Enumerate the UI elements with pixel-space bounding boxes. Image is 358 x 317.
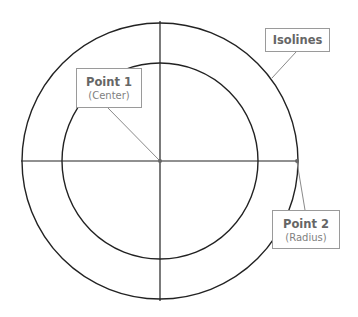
point2-label-box: Point 2 (Radius) [272,210,340,249]
isolines-leader-line [272,52,296,78]
radius-point-marker [295,159,299,163]
point2-leader-line [297,162,305,210]
point1-title: Point 1 [77,75,141,89]
center-point-marker [158,159,162,163]
point1-label-box: Point 1 (Center) [76,68,142,108]
isolines-title: Isolines [266,33,329,47]
point1-subtitle: (Center) [77,89,141,102]
point2-subtitle: (Radius) [273,231,339,244]
point2-title: Point 2 [273,217,339,231]
isolines-label-box: Isolines [265,28,330,52]
point1-leader-line [108,108,160,161]
